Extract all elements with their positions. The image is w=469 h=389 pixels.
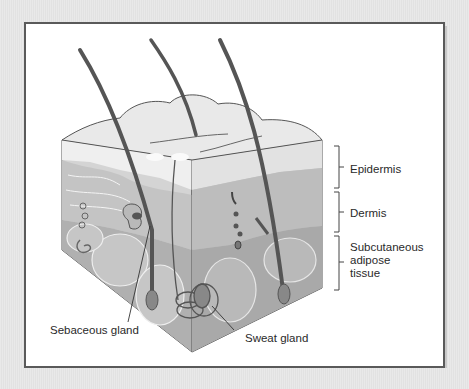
label-epidermis: Epidermis [350, 163, 401, 176]
label-dermis: Dermis [350, 207, 386, 220]
label-subcutaneous-adipose-tissue: Subcutaneous adipose tissue [350, 241, 424, 280]
label-sweat-gland: Sweat gland [245, 332, 308, 345]
label-sebaceous-gland: Sebaceous gland [50, 324, 139, 337]
layer-brackets [334, 146, 344, 290]
block-right-face [192, 140, 322, 352]
